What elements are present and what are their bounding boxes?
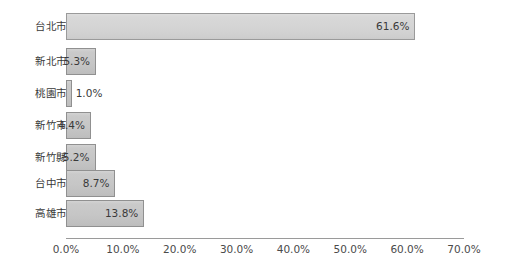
- bar-row[interactable]: 高雄市 13.8%: [0, 200, 510, 227]
- bar-row[interactable]: 台北市 61.6%: [0, 13, 510, 40]
- bar-row[interactable]: 桃園市 1.0%: [0, 80, 510, 107]
- bar-row[interactable]: 新竹市 4.4%: [0, 112, 510, 139]
- bar-wrapper: 61.6%: [66, 13, 415, 40]
- bar[interactable]: [66, 80, 72, 107]
- plot-area: 台北市 61.6% 新北市 5.3% 桃園市 1.0% 新竹市: [0, 0, 510, 236]
- category-label: 台中市: [35, 170, 66, 197]
- bar[interactable]: [66, 13, 415, 40]
- bar-wrapper: 5.2%: [66, 144, 96, 171]
- bar-value-label: 8.7%: [83, 170, 110, 197]
- x-axis-line: [66, 238, 464, 239]
- bar-row[interactable]: 台中市 8.7%: [0, 170, 510, 197]
- bar-value-label: 61.6%: [376, 13, 409, 40]
- bar-wrapper: 8.7%: [66, 170, 115, 197]
- category-label: 台北市: [35, 13, 66, 40]
- bar-row[interactable]: 新竹縣 5.2%: [0, 144, 510, 171]
- bar-chart: 台北市 61.6% 新北市 5.3% 桃園市 1.0% 新竹市: [0, 0, 510, 272]
- x-axis-tick-labels: 0.0% 10.0% 20.0% 30.0% 40.0% 50.0% 60.0%…: [0, 243, 510, 261]
- category-label: 桃園市: [35, 80, 66, 107]
- bar-value-label: 5.2%: [63, 144, 90, 171]
- category-label: 高雄市: [35, 200, 66, 227]
- x-axis-tick-label: 70.0%: [429, 243, 499, 255]
- bar-wrapper: 1.0%: [66, 80, 72, 107]
- bar-row[interactable]: 新北市 5.3%: [0, 48, 510, 75]
- bar-wrapper: 4.4%: [66, 112, 91, 139]
- bar-value-label: 5.3%: [63, 48, 90, 75]
- category-label: 新北市: [35, 48, 66, 75]
- bar-wrapper: 5.3%: [66, 48, 96, 75]
- bar-value-label: 4.4%: [58, 112, 85, 139]
- category-label: 新竹縣: [35, 144, 66, 171]
- bar-value-label: 13.8%: [105, 200, 138, 227]
- bar-wrapper: 13.8%: [66, 200, 144, 227]
- bar-value-label: 1.0%: [76, 80, 103, 107]
